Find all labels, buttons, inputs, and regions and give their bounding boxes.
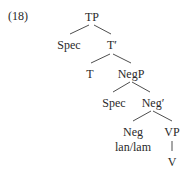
syntax-tree-diagram: (18) TP Spec T′ T NegP Spec Neg′ Neg VP …	[0, 0, 190, 178]
node-v: V	[168, 156, 177, 168]
vp-v-branch	[0, 0, 190, 178]
